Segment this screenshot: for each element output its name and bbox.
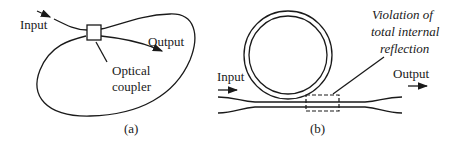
ring-inner [249,16,327,94]
caption-a: (a) [124,121,138,136]
label-coupler: coupler [112,79,152,94]
waveguide-bottom [218,107,402,113]
caption-b: (b) [310,121,325,136]
waveguide-top [218,97,402,102]
panel-a-fiber-loop-diagram: Input Output Optical coupler (a) [20,11,195,136]
figure-canvas: Input Output Optical coupler (a) Input O… [0,0,455,144]
label-optical: Optical [112,63,151,78]
label-total-internal: total internal [371,24,440,39]
label-input-a: Input [20,17,48,32]
input-fiber [54,19,87,30]
output-fiber [101,36,155,48]
ring-outer [244,11,332,99]
label-output-a: Output [148,34,185,49]
label-output-b: Output [393,66,430,81]
optical-coupler-box [87,25,101,40]
coupler-leader-line [96,42,107,62]
label-reflection: reflection [380,41,429,56]
label-input-b: Input [217,69,245,84]
label-violation-of: Violation of [372,7,435,22]
annotation-leader-line [333,57,384,94]
coupling-region-dashed-box [306,95,339,111]
panel-b-ring-resonator-diagram: Input Output Violation of total internal… [217,7,440,136]
